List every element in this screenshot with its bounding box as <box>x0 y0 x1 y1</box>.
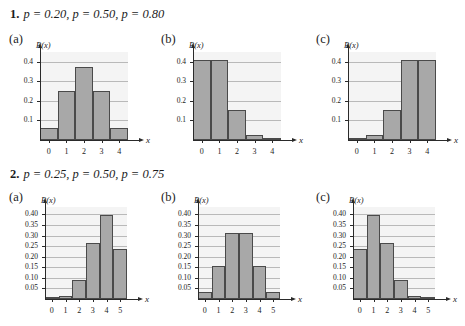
chart-2c-x-tick-label: 0 <box>353 307 367 315</box>
chart-1b-x-tick-label: 4 <box>265 148 279 156</box>
chart-2c-y-tick-label: 0.35 <box>308 221 346 229</box>
chart-1a-x-tick-label: 4 <box>112 148 126 156</box>
chart-2a-y-tick-mark <box>42 288 45 289</box>
chart-1b-x-axis-arrow-icon <box>292 138 297 142</box>
chart-1b-x-axis-label: x <box>299 136 303 145</box>
problem-1-parameters: p = 0.20, p = 0.50, p = 0.80 <box>23 7 164 21</box>
chart-1a-x-axis <box>40 140 139 141</box>
chart-2a-y-tick-mark <box>42 225 45 226</box>
chart-1b-bar <box>228 110 246 140</box>
chart-2c-bar <box>394 280 408 299</box>
chart-2a-y-tick-label: 0.20 <box>0 253 38 261</box>
chart-2a-x-tick-mark <box>107 299 108 302</box>
chart-2a: P(x)x0.050.100.150.200.250.300.350.40012… <box>0 196 155 326</box>
chart-2b-x-tick-label: 0 <box>198 307 212 315</box>
chart-2a-y-tick-label: 0.30 <box>0 232 38 240</box>
chart-1a-bar <box>40 128 58 140</box>
chart-2a-x-tick-label: 0 <box>45 307 59 315</box>
chart-2b: P(x)x0.050.100.150.200.250.300.350.40012… <box>153 196 308 326</box>
chart-2c-y-tick-label: 0.25 <box>308 242 346 250</box>
chart-2c-x-tick-label: 2 <box>380 307 394 315</box>
chart-2b-y-tick-mark <box>195 236 198 237</box>
chart-2c-x-axis <box>353 299 446 300</box>
chart-2c-y-tick-mark <box>350 257 353 258</box>
chart-1a-y-axis <box>40 48 41 140</box>
chart-1c-y-tick-mark <box>345 81 348 82</box>
chart-2a-y-axis-arrow-icon <box>43 198 47 203</box>
chart-1a-bar <box>58 91 76 140</box>
chart-1c-y-tick-label: 0.1 <box>310 116 341 124</box>
chart-1b-x-tick-mark <box>272 140 273 143</box>
chart-1a-bar <box>110 128 128 140</box>
chart-2b-y-tick-label: 0.05 <box>153 284 191 292</box>
chart-2c-gridline <box>353 246 435 247</box>
chart-2b-x-tick-label: 4 <box>253 307 267 315</box>
chart-2b-y-tick-label: 0.15 <box>153 263 191 271</box>
chart-1c-x-tick-label: 0 <box>350 148 364 156</box>
chart-2b-x-axis-arrow-icon <box>291 297 296 301</box>
chart-1a-plot-area <box>40 52 128 140</box>
chart-1a-y-tick-mark <box>37 62 40 63</box>
chart-2a-bar <box>100 215 114 299</box>
chart-1b-x-tick-mark <box>219 140 220 143</box>
chart-2b-x-tick-mark <box>246 299 247 302</box>
chart-2b-y-tick-label: 0.20 <box>153 253 191 261</box>
chart-2b-y-tick-mark <box>195 267 198 268</box>
chart-2a-y-tick-label: 0.10 <box>0 274 38 282</box>
chart-1a-y-tick-mark <box>37 81 40 82</box>
chart-2a-gridline <box>45 214 127 215</box>
problem-1: 1.p = 0.20, p = 0.50, p = 0.80 (a) P(x)x… <box>0 0 465 163</box>
chart-1a-x-axis-arrow-icon <box>139 138 144 142</box>
chart-2b-bar <box>239 233 253 299</box>
chart-2b-x-axis <box>198 299 291 300</box>
chart-2c-x-tick-mark <box>374 299 375 302</box>
chart-1c-bar <box>383 110 401 140</box>
chart-1b-bar <box>193 60 211 140</box>
chart-2c-y-tick-label: 0.40 <box>308 210 346 218</box>
chart-2b-bar <box>212 266 226 299</box>
chart-1b-x-tick-label: 3 <box>248 148 262 156</box>
chart-2b-x-tick-mark <box>260 299 261 302</box>
chart-2b-gridline <box>198 225 280 226</box>
chart-1b-y-tick-label: 0.3 <box>155 77 186 85</box>
chart-2b-y-tick-label: 0.35 <box>153 221 191 229</box>
chart-2c-bar <box>380 243 394 299</box>
chart-1a-y-tick-label: 0.3 <box>2 77 33 85</box>
chart-2a-x-tick-label: 3 <box>86 307 100 315</box>
chart-2b-y-tick-mark <box>195 257 198 258</box>
chart-2a-x-tick-label: 2 <box>72 307 86 315</box>
chart-1c-y-axis <box>348 48 349 140</box>
chart-2b-plot-area <box>198 207 280 299</box>
chart-1c-y-tick-label: 0.3 <box>310 77 341 85</box>
chart-1c-y-axis-arrow-icon <box>346 43 350 48</box>
chart-1b-y-tick-label: 0.1 <box>155 116 186 124</box>
chart-1c-plot-area <box>348 52 436 140</box>
chart-1b: P(x)x0.10.20.30.401234 <box>155 38 310 168</box>
chart-2b-x-tick-mark <box>205 299 206 302</box>
chart-1a-y-tick-label: 0.4 <box>2 58 33 66</box>
chart-1c-x-axis <box>348 140 447 141</box>
chart-1b-plot-area <box>193 52 281 140</box>
chart-2c-y-tick-label: 0.15 <box>308 263 346 271</box>
chart-2b-y-tick-mark <box>195 225 198 226</box>
chart-1c-y-tick-label: 0.4 <box>310 58 341 66</box>
chart-1a-y-tick-label: 0.1 <box>2 116 33 124</box>
chart-2c-y-tick-mark <box>350 225 353 226</box>
chart-2c-y-tick-mark <box>350 278 353 279</box>
chart-2c-x-tick-mark <box>401 299 402 302</box>
chart-2c-gridline <box>353 236 435 237</box>
problem-1-heading: 1.p = 0.20, p = 0.50, p = 0.80 <box>0 8 164 21</box>
chart-2b-x-axis-label: x <box>298 295 302 304</box>
chart-2c-y-tick-mark <box>350 214 353 215</box>
chart-1b-x-tick-mark <box>237 140 238 143</box>
chart-2c-gridline <box>353 214 435 215</box>
chart-1c-x-tick-label: 2 <box>385 148 399 156</box>
chart-2a-x-axis-label: x <box>145 295 149 304</box>
chart-1c-y-tick-mark <box>345 62 348 63</box>
chart-1b-y-axis-arrow-icon <box>191 43 195 48</box>
chart-1a-bar <box>93 91 111 140</box>
chart-1c-x-tick-mark <box>357 140 358 143</box>
chart-1b-x-tick-label: 0 <box>195 148 209 156</box>
chart-1a-x-axis-label: x <box>146 136 150 145</box>
chart-1c-x-tick-mark <box>374 140 375 143</box>
